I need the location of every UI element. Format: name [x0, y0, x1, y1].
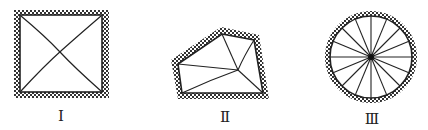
figures-canvas: Ⅰ Ⅱ	[0, 0, 428, 130]
label-figure-3: Ⅲ	[365, 110, 379, 128]
figure-pentagon: Ⅱ	[171, 27, 269, 126]
figure-square: Ⅰ	[14, 10, 109, 125]
pentagon-frame	[178, 34, 263, 93]
label-figure-2: Ⅱ	[220, 108, 230, 126]
figure-circle: Ⅲ	[325, 11, 417, 128]
label-figure-1: Ⅰ	[58, 107, 64, 125]
circle-center-point	[368, 54, 374, 60]
